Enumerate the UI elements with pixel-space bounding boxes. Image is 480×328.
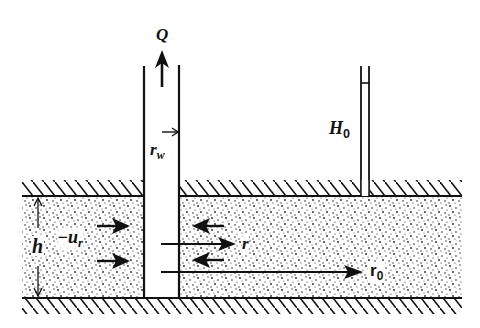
upper-confining-hatch-far <box>370 180 462 195</box>
confined-aquifer-diagram <box>0 0 480 328</box>
radius-label: r <box>242 235 249 252</box>
outer-radius-label: r0 <box>368 262 385 283</box>
discharge-label: Q <box>156 26 168 43</box>
well-radius-label: rw <box>150 141 165 162</box>
thickness-label: h <box>31 236 44 256</box>
well-bore <box>144 60 179 298</box>
upper-confining-hatch-left <box>22 180 143 195</box>
head-label: H0 <box>329 119 350 141</box>
velocity-label: −ur <box>57 228 83 250</box>
upper-confining-hatch-right <box>180 180 360 195</box>
lower-confining-hatch <box>22 299 462 314</box>
